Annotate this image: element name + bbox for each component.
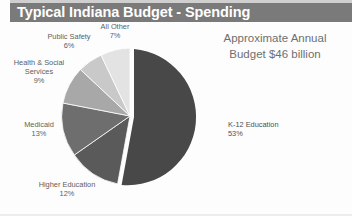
pie-chart: [52, 28, 212, 204]
pie-label-k12-pct: 53%: [228, 129, 306, 138]
pie-label-all-other-name: All Other: [101, 22, 130, 31]
pie-label-public-safety-pct: 6%: [38, 41, 100, 50]
pie-label-health-line2: Services: [2, 67, 76, 76]
slide-title-bar: Typical Indiana Budget - Spending: [10, 3, 352, 22]
pie-label-public-safety-name: Public Safety: [47, 32, 90, 41]
budget-annotation: Approximate Annual Budget $46 billion: [205, 30, 345, 62]
pie-label-health-line1: Health & Social: [14, 58, 65, 67]
annotation-line-1: Approximate Annual: [205, 30, 345, 46]
pie-label-medicaid: Medicaid 13%: [8, 120, 70, 138]
slide-canvas: Typical Indiana Budget - Spending Approx…: [0, 0, 352, 216]
annotation-line-2: Budget $46 billion: [205, 46, 345, 62]
pie-label-higher-education-pct: 12%: [24, 189, 110, 198]
pie-label-higher-education-name: Higher Education: [39, 180, 96, 189]
pie-label-medicaid-pct: 13%: [8, 129, 70, 138]
pie-chart-svg: [52, 28, 212, 204]
pie-label-k12-education: K-12 Education 53%: [228, 120, 306, 138]
slide-bottom-edge: [0, 214, 352, 216]
pie-label-health-pct: 9%: [2, 76, 76, 85]
pie-label-higher-education: Higher Education 12%: [24, 180, 110, 198]
pie-label-public-safety: Public Safety 6%: [38, 32, 100, 50]
pie-slice-k12: [122, 49, 196, 185]
pie-label-k12-name: K-12 Education: [228, 120, 279, 129]
page-title: Typical Indiana Budget - Spending: [10, 5, 250, 20]
pie-label-medicaid-name: Medicaid: [24, 120, 54, 129]
pie-label-health-social-services: Health & Social Services 9%: [2, 58, 76, 86]
